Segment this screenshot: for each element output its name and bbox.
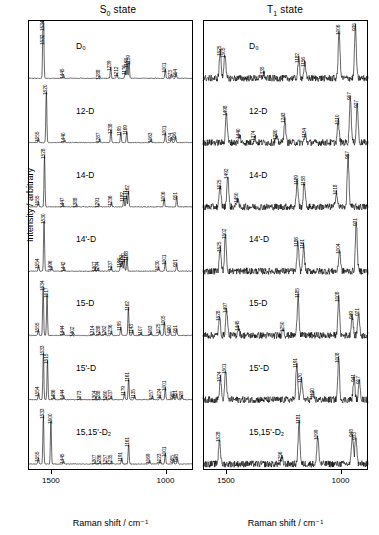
trace-label-D0: D₀	[249, 41, 259, 51]
peak-label: 949	[348, 311, 354, 319]
peak-label: 1212	[113, 67, 119, 77]
peak-label: 954	[172, 69, 178, 77]
peak-label: 1496	[47, 260, 53, 270]
peak-label: 1120	[309, 388, 315, 398]
peak-label: 1294	[94, 262, 100, 272]
x-tick-label: 1500	[206, 476, 246, 485]
peak-label: 1335	[259, 67, 265, 77]
spectrum-trace-T1state-14-D	[203, 154, 368, 210]
peak-label: 1057	[148, 390, 154, 400]
peak-label: 1533	[39, 409, 45, 419]
peak-label: 1486	[50, 389, 56, 399]
peak-label: 1374	[250, 131, 256, 141]
peak-label: 1238	[107, 123, 113, 133]
peak-label: 1191	[292, 358, 298, 368]
peak-label: 1532	[39, 35, 45, 45]
peak-label: 1236	[107, 325, 113, 335]
peak-label: 1445	[234, 321, 240, 331]
peak-label: 1498	[222, 105, 228, 115]
peak-label: 1450	[233, 192, 239, 202]
peak-label: 1554	[34, 387, 40, 397]
peak-label: 1237	[107, 390, 113, 400]
peak-label: 1154	[301, 128, 307, 138]
spectra-layer	[0, 0, 379, 535]
peak-label: 1063	[147, 326, 153, 336]
peak-label: 1161	[124, 372, 130, 382]
peak-label: 1189	[293, 175, 299, 185]
peak-label: 1156	[300, 57, 306, 67]
trace-label-12-D: 12-D	[76, 106, 94, 116]
peak-label: 1528	[215, 311, 221, 321]
peak-label: 1143	[128, 324, 134, 334]
peak-label: 1001	[161, 255, 167, 265]
trace-label-15'-D: 15'-D	[76, 363, 96, 373]
peak-label: 1515	[43, 353, 49, 363]
peak-label: 1525	[216, 242, 222, 252]
trace-label-15-D: 15-D	[249, 298, 267, 308]
peak-label: 967	[344, 152, 350, 160]
peak-label: 1006	[160, 192, 166, 202]
peak-label: 957	[346, 93, 352, 101]
peak-label: 1287	[95, 133, 101, 143]
peak-label: 1530	[40, 213, 46, 223]
peak-label: 927	[353, 100, 359, 108]
peak-label: 931	[352, 219, 358, 227]
peak-label: 1555	[34, 195, 40, 205]
spectrum-trace-T1state-15-D	[203, 294, 368, 339]
peak-label: 1181	[295, 414, 301, 424]
peak-label: 1447	[59, 197, 65, 207]
peak-label: 1534	[39, 21, 45, 31]
trace-label-15-D: 15-D	[76, 298, 94, 308]
peak-label: 1001	[161, 63, 167, 73]
x-tick-label: 1500	[31, 476, 71, 485]
trace-label-14'-D: 14'-D	[249, 234, 269, 244]
x-tick	[166, 470, 167, 474]
raman-figure: S0 state T1 state Intensity / arbitrary …	[0, 0, 379, 535]
peak-label: 1107	[137, 326, 143, 336]
peak-label: 1236	[107, 196, 113, 206]
x-tick	[226, 470, 227, 474]
x-tick	[341, 470, 342, 474]
peak-label: 1135	[130, 389, 136, 399]
peak-label: 1161	[299, 239, 305, 249]
peak-label: 1288	[95, 390, 101, 400]
peak-label: 1505	[220, 47, 226, 57]
peak-label: 1250	[279, 322, 285, 332]
x-tick-label: 1000	[146, 476, 186, 485]
trace-label-12-D: 12-D	[249, 106, 267, 116]
peak-label: 951	[172, 192, 178, 200]
peak-label: 1388	[72, 198, 78, 208]
peak-label: 1001	[161, 381, 167, 391]
peak-label: 1162	[124, 301, 130, 311]
peak-label: 1179	[120, 386, 126, 396]
peak-label: 1440	[60, 133, 66, 143]
peak-label: 1191	[117, 452, 123, 462]
peak-label: 1159	[125, 55, 131, 65]
peak-label: 1554	[34, 259, 40, 269]
peak-label: 1158	[300, 176, 306, 186]
peak-label: 1501	[221, 364, 227, 374]
peak-label: 1006	[335, 25, 341, 35]
peak-label: 980	[166, 326, 172, 334]
peak-label: 1291	[94, 197, 100, 207]
peak-label: 1001	[161, 446, 167, 456]
peak-label: 1195	[116, 321, 122, 331]
peak-label: 1520	[42, 85, 48, 95]
peak-label: 1517	[43, 288, 49, 298]
peak-label: 1001	[161, 126, 167, 136]
x-tick-label: 1000	[321, 476, 361, 485]
peak-label: 1063	[147, 133, 153, 143]
peak-label: 1286	[96, 455, 102, 465]
peak-label: 1004	[335, 243, 341, 253]
peak-label: 1444	[59, 326, 65, 336]
peak-label: 1008	[334, 292, 340, 302]
peak-label: 921	[354, 309, 360, 317]
peak-label: 928	[178, 391, 184, 399]
peak-label: 1402	[69, 327, 75, 337]
peak-label: 1280	[272, 130, 278, 140]
spectrum-trace-T1state-15'-D	[203, 357, 368, 403]
peak-label: 1069	[145, 454, 151, 464]
peak-label: 1440	[235, 129, 241, 139]
peak-label: 1170	[297, 373, 303, 383]
peak-label: 1497	[222, 302, 228, 312]
